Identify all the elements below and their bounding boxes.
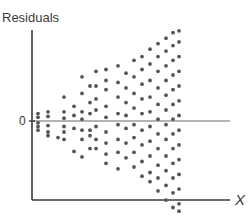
data-point [140, 174, 144, 178]
data-point [94, 147, 98, 151]
data-point [177, 29, 181, 33]
data-point [140, 160, 144, 164]
data-point [156, 42, 160, 46]
data-point [56, 136, 60, 140]
data-point [116, 95, 120, 99]
data-point [80, 138, 84, 142]
data-point [156, 163, 160, 167]
data-point [88, 128, 92, 132]
data-point [148, 95, 152, 99]
data-point [171, 132, 175, 136]
data-point [72, 126, 76, 130]
data-point [156, 69, 160, 73]
y-axis-label: Residuals [2, 10, 59, 25]
data-point [148, 139, 152, 143]
data-point [164, 36, 168, 40]
data-point [164, 49, 168, 53]
data-point [94, 138, 98, 142]
data-point [46, 130, 50, 134]
data-point [177, 143, 181, 147]
data-point [171, 176, 175, 180]
data-point [171, 58, 175, 62]
data-point [116, 123, 120, 127]
data-point [171, 103, 175, 107]
data-point [94, 108, 98, 112]
data-point [171, 147, 175, 151]
data-point [132, 123, 136, 127]
data-point [104, 130, 108, 134]
data-point [132, 58, 136, 62]
data-point [132, 92, 136, 96]
plot-area [0, 0, 252, 216]
data-point [177, 173, 181, 177]
data-point [132, 106, 136, 110]
data-point [140, 112, 144, 116]
data-point [88, 84, 92, 88]
data-point [156, 147, 160, 151]
data-point [46, 110, 50, 114]
data-point [164, 184, 168, 188]
data-point [177, 84, 181, 88]
data-point [72, 104, 76, 108]
data-point [94, 84, 98, 88]
data-point [62, 138, 66, 142]
data-point [156, 103, 160, 107]
data-point [36, 125, 40, 129]
data-point [124, 114, 128, 118]
data-point [72, 150, 76, 154]
data-point [104, 104, 108, 108]
data-point [36, 128, 40, 132]
data-point [177, 99, 181, 103]
data-point [177, 69, 181, 73]
data-point [62, 116, 66, 120]
data-point [177, 158, 181, 162]
data-point [72, 114, 76, 118]
data-point [116, 150, 120, 154]
data-point [88, 112, 92, 116]
data-point [148, 62, 152, 66]
data-point [164, 198, 168, 202]
data-point [80, 117, 84, 121]
data-point [80, 92, 84, 96]
data-point [177, 128, 181, 132]
data-point [177, 209, 181, 213]
data-point [148, 171, 152, 175]
data-point [94, 69, 98, 73]
data-point [148, 125, 152, 129]
data-point [88, 134, 92, 138]
data-point [148, 154, 152, 158]
data-point [156, 132, 160, 136]
data-point [36, 121, 40, 125]
data-point [140, 82, 144, 86]
data-point [164, 79, 168, 83]
data-point [46, 134, 50, 138]
data-point [124, 141, 128, 145]
data-point [104, 115, 108, 119]
data-point [140, 97, 144, 101]
data-point [171, 44, 175, 48]
data-point [116, 81, 120, 85]
data-point [80, 155, 84, 159]
data-point [156, 117, 160, 121]
data-point [171, 191, 175, 195]
data-point [116, 64, 120, 68]
data-point [171, 206, 175, 210]
data-point [156, 176, 160, 180]
data-point [124, 156, 128, 160]
data-point [80, 128, 84, 132]
data-point [46, 124, 50, 128]
data-point [164, 64, 168, 68]
data-point [148, 110, 152, 114]
data-point [177, 55, 181, 59]
data-point [36, 115, 40, 119]
data-point [171, 31, 175, 35]
data-point [148, 47, 152, 51]
data-point [171, 117, 175, 121]
data-point [140, 68, 144, 72]
data-point [104, 88, 108, 92]
data-point [140, 128, 144, 132]
data-point [164, 93, 168, 97]
data-point [171, 161, 175, 165]
data-point [132, 75, 136, 79]
data-point [88, 101, 92, 105]
